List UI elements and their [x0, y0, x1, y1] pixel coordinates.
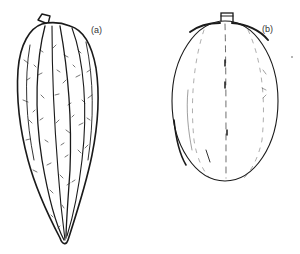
panel-label-b: (b): [262, 24, 273, 34]
panel-label-a: (a): [91, 25, 102, 35]
pod-b-illustration: [172, 13, 278, 181]
stray-mark: [291, 56, 293, 58]
cacao-pod-figure: (a) (b): [0, 0, 300, 254]
pod-a-illustration: [17, 14, 98, 244]
figure-drawing: [0, 0, 300, 254]
pod-b-outline: [172, 21, 278, 181]
